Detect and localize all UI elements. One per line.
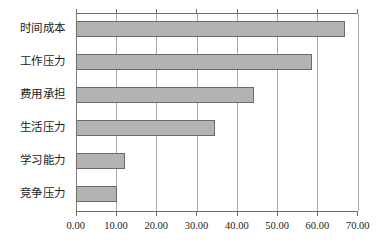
y-axis-tick-label: 生活压力 [20, 121, 65, 133]
x-axis-tick-mark [357, 212, 358, 216]
x-axis-tick-label: 10.00 [104, 219, 128, 232]
x-axis-tick-mark [277, 212, 278, 216]
gridline [156, 14, 157, 211]
plot-bottom-axis-line [76, 211, 358, 212]
bar [76, 21, 346, 37]
gridline [76, 14, 77, 211]
x-axis-tick-label: 40.00 [225, 219, 249, 232]
x-axis-tick-label: 0.00 [67, 219, 85, 232]
x-axis-tick-mark [116, 9, 117, 13]
bar [76, 120, 215, 136]
x-axis-tick-mark [76, 212, 77, 216]
x-axis-tick-mark [196, 212, 197, 216]
y-axis-tick-label: 竞争压力 [20, 187, 65, 199]
gridline [317, 14, 318, 211]
x-axis-tick-label: 50.00 [265, 219, 289, 232]
x-axis-tick-mark [196, 9, 197, 13]
x-axis-tick-mark [357, 9, 358, 13]
x-axis-tick-mark [277, 9, 278, 13]
y-axis-tick-label: 时间成本 [20, 22, 65, 34]
x-axis-tick-mark [237, 9, 238, 13]
y-axis-tick-label: 学习能力 [20, 154, 65, 166]
gridline [197, 14, 198, 211]
bar [76, 153, 126, 169]
gridline [358, 14, 359, 211]
gridline [277, 14, 278, 211]
x-axis-tick-label: 60.00 [306, 219, 330, 232]
x-axis-tick-mark [116, 212, 117, 216]
gridline [116, 14, 117, 211]
gridline [237, 14, 238, 211]
bar [76, 54, 312, 70]
bar [76, 186, 117, 202]
x-axis-tick-label: 30.00 [185, 219, 209, 232]
plot-area [76, 14, 358, 211]
bar [76, 87, 254, 103]
x-axis-tick-mark [156, 9, 157, 13]
x-axis-tick-mark [317, 212, 318, 216]
x-axis-label-group: 0.0010.0020.0030.0040.0050.0060.0070.00 [0, 219, 392, 239]
bar-chart: 时间成本 工作压力 费用承担 生活压力 学习能力 竞争压力 0.0010.002… [0, 0, 392, 246]
y-axis-tick-label: 工作压力 [20, 55, 65, 67]
x-axis-tick-mark [317, 9, 318, 13]
x-axis-tick-mark [76, 9, 77, 13]
x-axis-tick-label: 70.00 [346, 219, 370, 232]
x-axis-tick-label: 20.00 [144, 219, 168, 232]
y-axis-label-group: 时间成本 工作压力 费用承担 生活压力 学习能力 竞争压力 [0, 0, 72, 246]
x-axis-tick-mark [156, 212, 157, 216]
x-axis-tick-mark [237, 212, 238, 216]
y-axis-tick-label: 费用承担 [20, 88, 65, 100]
